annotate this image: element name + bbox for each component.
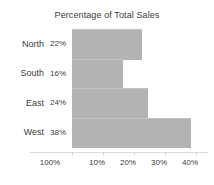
value-label-east: 24% [50, 98, 72, 107]
x-tick-label: 30% [151, 158, 167, 167]
bar-west [72, 118, 191, 149]
bar-row [72, 118, 214, 148]
x-tick-mark [196, 152, 197, 155]
value-label-south: 16% [50, 69, 72, 78]
value-label-north: 22% [50, 39, 72, 48]
x-tick-mark [103, 152, 104, 155]
x-tick-mark [134, 152, 135, 155]
x-tick-mark [72, 152, 73, 155]
plot-area [72, 29, 214, 152]
bar-row [72, 88, 214, 118]
bar-south [72, 59, 123, 90]
category-label-east: East [26, 98, 44, 108]
x-tick-label: 100% [40, 158, 60, 167]
bar-north [72, 29, 142, 60]
category-row: North 22% [0, 29, 72, 59]
x-tick-label: 40% [182, 158, 198, 167]
category-axis: North 22% South 16% East 24% West 38% [0, 29, 72, 152]
bar-row [72, 59, 214, 89]
chart-title: Percentage of Total Sales [0, 10, 214, 20]
x-tick-label: 20% [120, 158, 136, 167]
category-label-south: South [20, 68, 44, 78]
x-tick-mark [165, 152, 166, 155]
bar-row [72, 29, 214, 59]
category-label-west: West [24, 127, 44, 137]
category-row: West 38% [0, 118, 72, 148]
bar-chart: Percentage of Total Sales North 22% Sout… [0, 0, 214, 185]
category-row: East 24% [0, 88, 72, 118]
category-label-north: North [22, 39, 44, 49]
x-axis-line [30, 152, 208, 153]
value-label-west: 38% [50, 128, 72, 137]
x-tick-label: 10% [89, 158, 105, 167]
bar-east [72, 88, 148, 119]
category-row: South 16% [0, 59, 72, 89]
